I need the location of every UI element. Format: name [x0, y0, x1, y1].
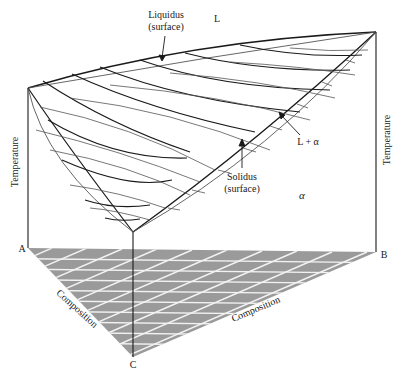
solid-phase-label: α — [299, 189, 305, 201]
two-phase-label: L + α — [297, 136, 319, 147]
liquid-phase-label: L — [214, 13, 220, 24]
two-phase-band-ties — [168, 60, 355, 210]
liquidus-label-line1: Liquidus — [148, 9, 184, 20]
vertex-a-label: A — [18, 243, 26, 254]
binary-ac-lens — [28, 88, 133, 232]
solidus-label-line2: (surface) — [224, 183, 260, 195]
liquidus-arrow — [162, 36, 165, 58]
vertex-c-label: C — [130, 359, 137, 370]
liquidus-label-line2: (surface) — [148, 21, 184, 33]
solidus-isotherms — [36, 48, 368, 220]
phase-diagram-canvas: Liquidus (surface) L L + α Solidus (surf… — [0, 0, 411, 383]
composition-floor — [0, 248, 411, 357]
vertex-b-label: B — [381, 249, 388, 260]
temperature-left-label: Temperature — [9, 136, 20, 187]
temperature-right-label: Temperature — [381, 114, 392, 165]
solidus-label-line1: Solidus — [227, 171, 257, 182]
phase-diagram: Liquidus (surface) L L + α Solidus (surf… — [0, 0, 411, 383]
